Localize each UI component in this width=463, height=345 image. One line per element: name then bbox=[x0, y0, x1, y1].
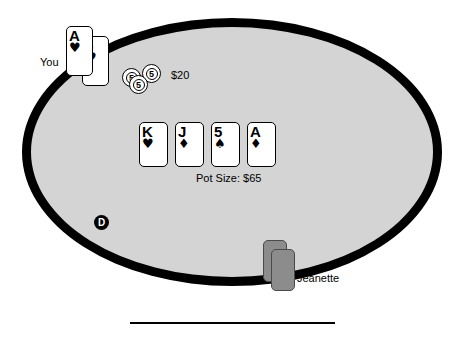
bet-chip: 5 bbox=[129, 75, 148, 94]
chip-denomination: 5 bbox=[136, 80, 141, 90]
community-card-4: A ♦ bbox=[247, 122, 276, 167]
community-card-3: 5 ♠ bbox=[211, 122, 240, 167]
heart-suit-icon: ♥ bbox=[142, 137, 154, 150]
diamond-suit-icon: ♦ bbox=[250, 137, 262, 150]
heart-suit-icon: ♥ bbox=[69, 41, 81, 54]
hero-hole-card-1[interactable]: A ♥ bbox=[66, 26, 93, 76]
bottom-divider bbox=[130, 322, 335, 324]
community-card-1: K ♥ bbox=[139, 122, 168, 167]
poker-table-scene: You A ♥ 5 ♥ 5 5 5 $20 K ♥ J ♦ 5 ♠ A ♦ Po… bbox=[0, 0, 463, 345]
pot-size-label: Pot Size: $65 bbox=[196, 172, 261, 184]
hero-seat-label: You bbox=[40, 56, 59, 68]
chip-denomination: 5 bbox=[149, 69, 154, 79]
hero-bet-amount: $20 bbox=[171, 69, 189, 81]
spade-suit-icon: ♠ bbox=[214, 137, 226, 150]
community-card-2: J ♦ bbox=[175, 122, 204, 167]
diamond-suit-icon: ♦ bbox=[178, 137, 190, 150]
dealer-button[interactable]: D bbox=[94, 215, 109, 230]
opponent-seat-label: Jeanette bbox=[297, 272, 339, 284]
opponent-facedown-card-2 bbox=[271, 249, 295, 291]
